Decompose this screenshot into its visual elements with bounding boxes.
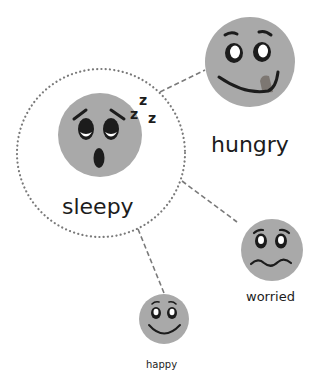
- node-label-worried: worried: [246, 290, 295, 303]
- diagram-canvas: [0, 0, 315, 383]
- sleep-z-1: z: [139, 93, 147, 107]
- sleep-z-3: z: [148, 111, 156, 125]
- connector-sleepy-happy: [138, 229, 164, 293]
- node-label-sleepy: sleepy: [62, 196, 134, 218]
- worried-face-icon: [241, 219, 303, 281]
- emotion-diagram: z z z sleepy hungry worried happy: [0, 0, 315, 383]
- node-label-happy: happy: [146, 360, 177, 370]
- connector-sleepy-worried: [182, 181, 237, 222]
- happy-face-icon: [139, 294, 189, 344]
- connector-sleepy-hungry: [160, 70, 205, 92]
- sleep-z-2: z: [130, 107, 138, 121]
- node-label-hungry: hungry: [211, 134, 289, 156]
- hungry-face-icon: [205, 17, 295, 107]
